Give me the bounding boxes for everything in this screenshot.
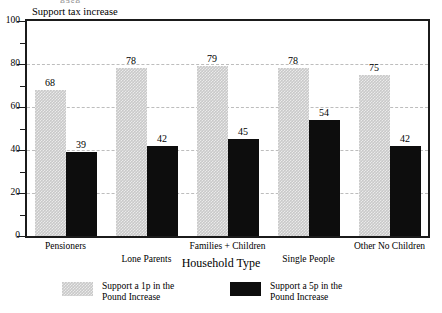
y-axis-tick-major	[17, 236, 25, 237]
bar-value-label: 45	[222, 127, 265, 137]
bar	[359, 75, 390, 236]
y-axis-tick-major	[17, 107, 25, 108]
bar	[116, 68, 147, 236]
y-axis-tick-major	[17, 64, 25, 65]
bar-value-label: 39	[60, 140, 103, 150]
bar	[309, 120, 340, 236]
bar-value-label: 75	[353, 63, 396, 73]
legend-label: Support a 5p in thePound Increase	[270, 281, 342, 302]
bar-value-label: 78	[110, 56, 153, 66]
x-axis-category-label: Families + Children	[168, 241, 288, 252]
x-axis-category-label: Other No Children	[330, 241, 442, 252]
bar	[228, 139, 259, 236]
bar	[197, 66, 228, 236]
legend-label: Support a 1p in thePound Increase	[102, 281, 174, 302]
bar-value-label: 42	[141, 134, 184, 144]
y-axis-tick-major	[17, 193, 25, 194]
legend-label-line2: Pound Increase	[270, 292, 342, 303]
legend-item[interactable]: Support a 1p in thePound Increase	[62, 281, 174, 302]
bar-value-label: 78	[272, 56, 315, 66]
legend-swatch	[62, 282, 93, 296]
bar-value-label: 79	[191, 54, 234, 64]
clipped-top-text: ease	[60, 0, 400, 3]
y-axis-tick-major	[17, 21, 25, 22]
bar	[390, 146, 421, 236]
bar-value-label: 68	[29, 78, 72, 88]
bar-chart: ease Support tax increase 020406080100 P…	[0, 0, 442, 313]
bar-value-label: 54	[303, 108, 346, 118]
bar	[35, 90, 66, 236]
legend-label-line1: Support a 5p in the	[270, 281, 342, 292]
legend-swatch	[230, 282, 261, 296]
y-axis-title: Support tax increase	[32, 6, 118, 18]
bar	[66, 152, 97, 236]
legend-label-line2: Pound Increase	[102, 292, 174, 303]
legend-item[interactable]: Support a 5p in thePound Increase	[230, 281, 342, 302]
bar	[278, 68, 309, 236]
bar	[147, 146, 178, 236]
x-axis-category-label: Pensioners	[6, 241, 126, 252]
x-axis-title: Household Type	[0, 256, 442, 270]
chart-legend: Support a 1p in thePound IncreaseSupport…	[0, 281, 442, 311]
legend-label-line1: Support a 1p in the	[102, 281, 174, 292]
y-axis-tick-major	[17, 150, 25, 151]
bar-value-label: 42	[384, 134, 427, 144]
